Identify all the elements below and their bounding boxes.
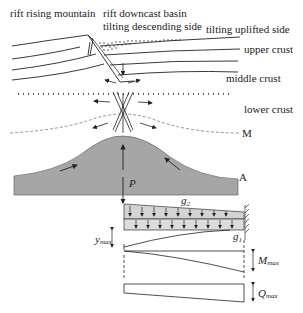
label-rift-downcast-basin: rift downcast basin — [103, 7, 187, 19]
label-lower-crust: lower crust — [244, 103, 293, 115]
label-tilting-uplifted-side: tilting uplifted side — [206, 23, 290, 35]
label-rift-rising-mountain: rift rising mountain — [10, 7, 96, 19]
arrow-right-lower — [140, 123, 156, 128]
label-tilting-descending-side: tilting descending side — [103, 20, 202, 32]
asthenosphere-upwelling — [14, 136, 238, 195]
rift-diagram: rift rising mountain rift downcast basin… — [0, 0, 303, 313]
moho-line — [10, 114, 240, 133]
arrow-left-lower — [93, 123, 108, 128]
label-g1: g1 — [233, 230, 242, 244]
label-qmax: Qmax — [258, 287, 279, 300]
moment-diagram — [124, 240, 244, 278]
arrow-left-upper — [94, 101, 110, 102]
label-asthenosphere: A — [239, 171, 247, 183]
extension-arrow-left — [105, 80, 116, 83]
deflection-curve — [124, 230, 230, 247]
right-crust-block — [100, 37, 240, 75]
label-force-p: P — [128, 177, 136, 189]
label-g2: g2 — [181, 194, 191, 208]
label-middle-crust: middle crust — [226, 72, 281, 84]
label-moho: M — [242, 127, 252, 139]
left-crust-block — [12, 35, 104, 80]
shear-diagram — [124, 284, 244, 302]
label-ymax: ymax — [94, 233, 112, 246]
conjugate-shear-zone — [113, 92, 133, 133]
label-mmax: Mmax — [257, 254, 280, 267]
fixed-support — [245, 204, 249, 240]
arrow-right-upper — [138, 102, 152, 103]
label-upper-crust: upper crust — [244, 43, 293, 55]
